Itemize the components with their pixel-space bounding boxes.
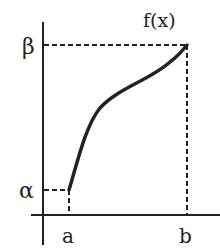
alpha-label: α [19, 178, 34, 203]
function-diagram: f(x) β α a b [0, 0, 220, 252]
b-label: b [179, 224, 192, 248]
function-label: f(x) [143, 9, 176, 31]
a-label: a [62, 224, 74, 248]
beta-label: β [22, 34, 35, 59]
function-curve [69, 45, 187, 190]
